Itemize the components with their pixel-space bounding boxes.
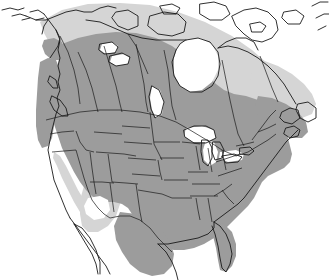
map-canvas bbox=[0, 0, 329, 280]
species-range-map: Year-round range Seasonal range Not pres… bbox=[0, 0, 329, 280]
